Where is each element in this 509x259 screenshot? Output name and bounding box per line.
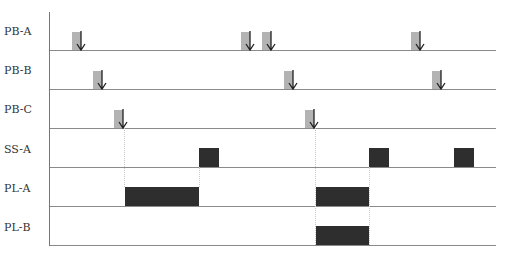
guide-line [199, 167, 200, 187]
lane-label-pl-b: PL-B [4, 220, 46, 236]
signal-block-pl-a [316, 187, 369, 206]
lane-label-pb-b: PB-B [4, 63, 46, 79]
guide-line [124, 128, 125, 187]
lane-label-pb-a: PB-A [4, 24, 46, 40]
arrow-down-icon [117, 108, 129, 130]
arrow-down-icon [287, 69, 299, 91]
baseline-pl-b [50, 245, 496, 246]
signal-block-pl-a [125, 187, 199, 206]
arrow-down-icon [244, 30, 256, 52]
vertical-axis [49, 12, 50, 246]
arrow-down-icon [308, 108, 320, 130]
timing-diagram: PB-A PB-B PB-C SS-A PL-A PL-B [0, 0, 509, 259]
signal-block-pl-b [316, 226, 369, 245]
arrow-down-icon [96, 69, 108, 91]
baseline-ss-a [50, 167, 496, 168]
signal-block-ss-a [369, 148, 389, 167]
arrow-down-icon [75, 30, 87, 52]
signal-block-ss-a [199, 148, 219, 167]
baseline-pb-b [50, 89, 496, 90]
lane-label-pb-c: PB-C [4, 102, 46, 118]
baseline-pl-a [50, 206, 496, 207]
arrow-down-icon [435, 69, 447, 91]
lane-label-ss-a: SS-A [4, 142, 46, 158]
lane-label-pl-a: PL-A [4, 181, 46, 197]
arrow-down-icon [265, 30, 277, 52]
arrow-down-icon [414, 30, 426, 52]
signal-block-ss-a [454, 148, 474, 167]
guide-line [369, 167, 370, 245]
